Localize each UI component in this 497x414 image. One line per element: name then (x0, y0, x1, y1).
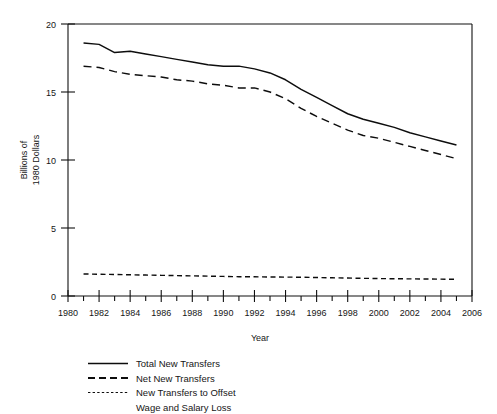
x-tick-label: 1984 (120, 308, 140, 318)
x-tick-label: 2002 (400, 308, 420, 318)
y-tick-label: 20 (46, 20, 56, 30)
x-axis-title: Year (251, 333, 269, 343)
x-tick-label: 1986 (151, 308, 171, 318)
x-tick-label: 1982 (89, 308, 109, 318)
y-tick-label: 10 (46, 156, 56, 166)
x-tick-label: 2000 (369, 308, 389, 318)
x-tick-label: 1998 (338, 308, 358, 318)
x-tick-label: 1988 (182, 308, 202, 318)
legend-label: Total New Transfers (136, 358, 220, 369)
x-tick-label: 1980 (58, 308, 78, 318)
x-tick-label: 2004 (431, 308, 451, 318)
line-chart-svg: 1980198219841986198819901992199419961998… (0, 0, 497, 414)
x-tick-label: 2006 (462, 308, 482, 318)
legend-label: Net New Transfers (136, 373, 215, 384)
chart-background (0, 0, 497, 414)
chart-figure: 1980198219841986198819901992199419961998… (0, 0, 497, 414)
x-tick-label: 1990 (213, 308, 233, 318)
x-tick-label: 1992 (244, 308, 264, 318)
y-tick-label: 15 (46, 88, 56, 98)
y-axis-title-line: 1980 Dollars (31, 134, 41, 185)
y-tick-label: 0 (51, 292, 56, 302)
x-tick-label: 1994 (276, 308, 296, 318)
legend-label: Wage and Salary Loss (136, 402, 231, 413)
y-axis-title-line: Billions of (19, 140, 29, 179)
y-tick-label: 5 (51, 224, 56, 234)
legend-label: New Transfers to Offset (136, 387, 236, 398)
x-tick-label: 1996 (307, 308, 327, 318)
